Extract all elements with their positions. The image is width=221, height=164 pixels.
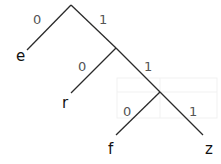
tree-edge xyxy=(71,5,116,48)
edge-label: 1 xyxy=(189,104,197,119)
background-ghost-table xyxy=(117,78,217,118)
edge-label: 0 xyxy=(123,104,131,119)
edge-label: 0 xyxy=(78,59,86,74)
leaf-symbol-f: f xyxy=(108,140,114,158)
tree-edge xyxy=(116,48,160,92)
edge-label: 0 xyxy=(33,12,41,27)
leaf-symbol-e: e xyxy=(16,47,25,65)
leaf-symbol-z: z xyxy=(205,140,213,158)
edge-label: 1 xyxy=(144,59,152,74)
leaf-symbols: erfz xyxy=(16,47,213,158)
huffman-tree-diagram: 010101 erfz xyxy=(0,0,221,164)
leaf-symbol-r: r xyxy=(62,94,69,112)
edge-labels: 010101 xyxy=(33,12,197,119)
tree-edges xyxy=(27,5,203,135)
tree-svg: 010101 erfz xyxy=(0,0,221,164)
edge-label: 1 xyxy=(99,12,107,27)
